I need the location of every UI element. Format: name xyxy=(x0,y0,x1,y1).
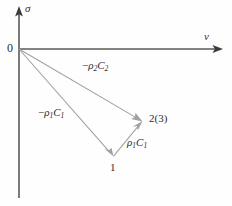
vector-neg-rho2-c2-arrowhead xyxy=(131,113,142,122)
point-label-2-3: 2(3) xyxy=(149,113,167,124)
c-symbol-2: C xyxy=(97,59,104,71)
vector-neg-rho1-c1-label: −ρ1C1 xyxy=(38,107,64,120)
v-axis-label: v xyxy=(204,31,209,42)
c-subscript-1-pos: 1 xyxy=(143,141,147,150)
vector-neg-rho2-c2-label: −ρ2C2 xyxy=(82,60,108,73)
diagram-canvas xyxy=(0,0,232,206)
vector-rho1-c1-label: ρ1C1 xyxy=(127,137,147,150)
c-subscript-1-neg: 1 xyxy=(61,111,65,120)
vector-diagram: σ v 0 −ρ2C2 −ρ1C1 ρ1C1 1 2(3) xyxy=(0,0,232,206)
origin-label: 0 xyxy=(7,42,13,54)
c-symbol-1-neg: C xyxy=(53,106,60,118)
point-label-1: 1 xyxy=(110,162,116,173)
sigma-axis-label: σ xyxy=(25,3,30,14)
vector-rho1-c1-arrowhead xyxy=(133,121,143,130)
vector-neg-rho1-c1-arrowhead xyxy=(104,148,113,156)
c-subscript-2: 2 xyxy=(105,64,109,73)
vector-neg-rho2-c2-line xyxy=(19,49,136,118)
